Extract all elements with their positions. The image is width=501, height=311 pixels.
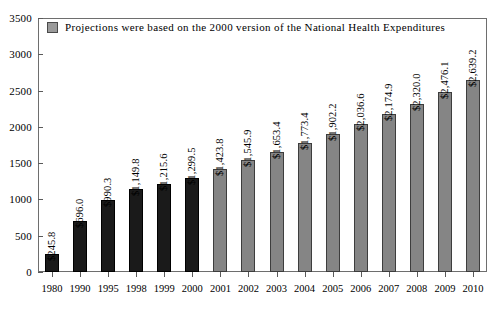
bar-value-label: $1,423.8	[214, 138, 225, 176]
y-axis-tick-mark	[38, 54, 43, 55]
x-axis-tick-label: 1995	[98, 283, 119, 294]
x-axis-tick-mark	[417, 272, 418, 277]
x-axis-tick-label: 2003	[266, 283, 287, 294]
y-axis-tick-mark	[38, 199, 43, 200]
bar-2003	[270, 152, 284, 272]
x-axis-tick-mark	[80, 272, 81, 277]
bar-value-label: $1,902.2	[327, 103, 338, 141]
y-axis-tick-mark	[38, 91, 43, 92]
bar-value-label: $2,639.2	[467, 50, 478, 88]
x-axis-tick-label: 2004	[294, 283, 315, 294]
bar-2001	[213, 169, 227, 272]
bar-1999	[157, 184, 171, 272]
bar-value-label: $2,174.9	[383, 84, 394, 122]
x-axis-tick-label: 2001	[210, 283, 231, 294]
x-axis-tick-label: 2002	[238, 283, 259, 294]
bar-value-label: $245.8	[46, 232, 57, 261]
bar-value-label: $1,773.4	[299, 113, 310, 151]
y-axis-tick-mark	[38, 272, 43, 273]
x-axis-tick-mark	[305, 272, 306, 277]
y-axis-tick-mark	[38, 236, 43, 237]
x-axis-tick-mark	[52, 272, 53, 277]
bar-1990	[73, 221, 87, 272]
bar-1995	[101, 200, 115, 272]
x-axis-tick-mark	[164, 272, 165, 277]
y-axis-tick-mark	[38, 163, 43, 164]
x-axis-tick-mark	[445, 272, 446, 277]
x-axis-tick-label: 2008	[406, 283, 427, 294]
bar-value-label: $1,653.4	[271, 121, 282, 159]
x-axis-tick-mark	[248, 272, 249, 277]
bar-1998	[129, 189, 143, 272]
bar-value-label: $1,149.8	[130, 158, 141, 196]
x-axis-tick-label: 1990	[70, 283, 91, 294]
x-axis-tick-mark	[333, 272, 334, 277]
bar-2006	[354, 124, 368, 272]
bar-2000	[185, 178, 199, 272]
y-axis-tick-mark	[38, 18, 43, 19]
bar-value-label: $2,036.6	[355, 94, 366, 132]
x-axis-tick-mark	[136, 272, 137, 277]
x-axis-tick-mark	[361, 272, 362, 277]
bar-2005	[326, 134, 340, 272]
bar-value-label: $1,299.5	[186, 147, 197, 185]
bar-value-label: $1,545.9	[242, 129, 253, 167]
bar-value-label: $2,476.1	[439, 62, 450, 100]
bar-2009	[438, 92, 452, 272]
bar-chart: Projections were based on the 2000 versi…	[0, 0, 501, 311]
x-axis-tick-mark	[389, 272, 390, 277]
y-axis-tick-mark	[38, 127, 43, 128]
x-axis-tick-label: 1999	[154, 283, 175, 294]
bar-value-label: $990.3	[102, 178, 113, 207]
x-axis-tick-label: 2006	[350, 283, 371, 294]
bar-2004	[298, 143, 312, 272]
bar-2010	[466, 80, 480, 272]
x-axis-tick-mark	[220, 272, 221, 277]
bar-value-label: $1,215.6	[158, 153, 169, 191]
x-axis-tick-label: 2010	[462, 283, 483, 294]
x-axis-tick-mark	[108, 272, 109, 277]
bar-value-label: $2,320.0	[411, 73, 422, 111]
x-axis-tick-label: 2009	[434, 283, 455, 294]
x-axis-tick-label: 2005	[322, 283, 343, 294]
x-axis-tick-label: 1998	[126, 283, 147, 294]
x-axis-tick-label: 1980	[42, 283, 63, 294]
bar-2008	[410, 104, 424, 272]
x-axis-tick-label: 2000	[182, 283, 203, 294]
bars-layer: $245.8$696.0$990.3$1,149.8$1,215.6$1,299…	[0, 0, 501, 311]
bar-2007	[382, 114, 396, 272]
x-axis-tick-mark	[473, 272, 474, 277]
x-axis-tick-mark	[277, 272, 278, 277]
x-axis-tick-mark	[192, 272, 193, 277]
x-axis-tick-label: 2007	[378, 283, 399, 294]
bar-value-label: $696.0	[74, 199, 85, 228]
bar-2002	[241, 160, 255, 272]
